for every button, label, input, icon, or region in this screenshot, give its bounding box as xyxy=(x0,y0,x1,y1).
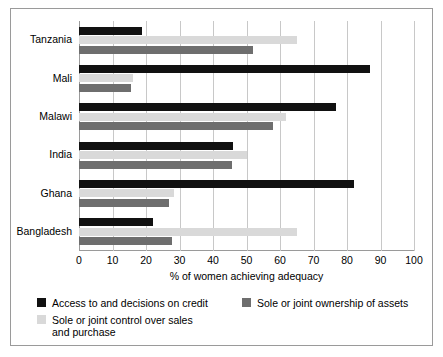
x-tick-label-10: 10 xyxy=(107,254,119,267)
legend-item-control: Sole or joint control over sales and pur… xyxy=(37,314,193,338)
bar-credit xyxy=(79,103,336,111)
bar-group xyxy=(79,21,414,59)
category-label-india: India xyxy=(49,149,72,160)
bar-credit xyxy=(79,27,142,35)
legend-swatch-ownership-icon xyxy=(242,298,251,307)
bar-ownership xyxy=(79,84,131,92)
category-label-ghana: Ghana xyxy=(40,188,72,199)
x-tick-label-100: 100 xyxy=(405,254,423,267)
bar-group xyxy=(79,136,414,174)
x-tick-label-80: 80 xyxy=(341,254,353,267)
category-label-mali: Mali xyxy=(53,73,72,84)
chart-legend: Access to and decisions on credit Sole o… xyxy=(37,297,417,341)
x-tick-label-20: 20 xyxy=(140,254,152,267)
bar-control xyxy=(79,189,174,197)
bar-control xyxy=(79,36,297,44)
bar-ownership xyxy=(79,199,169,207)
chart-figure: TanzaniaMaliMalawiIndiaGhanaBangladesh 0… xyxy=(10,8,433,346)
x-tick-label-90: 90 xyxy=(375,254,387,267)
x-tick-label-60: 60 xyxy=(274,254,286,267)
bar-credit xyxy=(79,180,354,188)
bar-credit xyxy=(79,65,370,73)
bar-control xyxy=(79,228,297,236)
bar-group xyxy=(79,213,414,251)
x-axis-title: % of women achieving adequacy xyxy=(79,270,414,282)
bar-control xyxy=(79,113,286,121)
bar-group xyxy=(79,98,414,136)
x-tick-label-70: 70 xyxy=(308,254,320,267)
legend-label-control: Sole or joint control over sales and pur… xyxy=(52,314,193,338)
legend-label-ownership: Sole or joint ownership of assets xyxy=(257,297,408,309)
category-label-malawi: Malawi xyxy=(39,111,72,122)
bar-control xyxy=(79,151,247,159)
bar-group xyxy=(79,59,414,97)
x-tick-label-40: 40 xyxy=(207,254,219,267)
legend-swatch-control-icon xyxy=(37,315,46,324)
legend-label-credit: Access to and decisions on credit xyxy=(52,297,208,309)
category-label-tanzania: Tanzania xyxy=(30,34,72,45)
plot-area xyxy=(79,21,414,251)
bar-ownership xyxy=(79,161,232,169)
bar-credit xyxy=(79,218,153,226)
bar-ownership xyxy=(79,122,273,130)
gridline-100 xyxy=(414,21,415,251)
bar-ownership xyxy=(79,237,172,245)
x-tick-label-50: 50 xyxy=(241,254,253,267)
bar-control xyxy=(79,74,133,82)
category-label-bangladesh: Bangladesh xyxy=(17,226,72,237)
x-tick-label-30: 30 xyxy=(174,254,186,267)
x-tick-label-0: 0 xyxy=(76,254,82,267)
legend-item-credit: Access to and decisions on credit xyxy=(37,297,208,309)
x-axis-tick-labels: 0102030405060708090100 xyxy=(79,254,414,270)
bar-group xyxy=(79,174,414,212)
category-axis-labels: TanzaniaMaliMalawiIndiaGhanaBangladesh xyxy=(11,21,77,251)
bar-credit xyxy=(79,142,233,150)
legend-item-ownership: Sole or joint ownership of assets xyxy=(242,297,408,309)
bar-ownership xyxy=(79,46,253,54)
legend-swatch-credit-icon xyxy=(37,298,46,307)
